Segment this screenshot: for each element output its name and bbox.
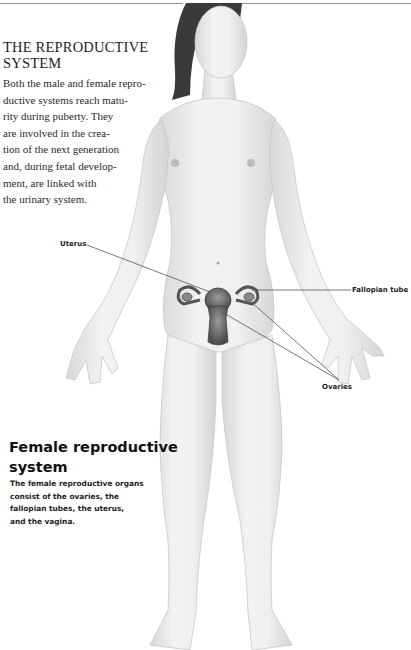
label-ovaries: Ovaries	[322, 383, 352, 391]
label-uterus: Uterus	[60, 240, 86, 248]
caption-title: Female reproductive system	[9, 437, 199, 477]
section-title-line: THE REPRODUCTIVE	[3, 39, 163, 55]
caption-body: The female reproductive organs consist o…	[10, 478, 180, 528]
caption-line: consist of the ovaries, the	[10, 491, 180, 504]
intro-line: the urinary system.	[3, 191, 163, 208]
caption-line: The female reproductive organs	[10, 478, 180, 491]
intro-line: Both the male and female repro-	[3, 75, 163, 92]
caption-title-line: system	[9, 457, 199, 477]
section-title-line: SYSTEM	[3, 55, 163, 71]
intro-line: rity during puberty. They	[3, 108, 163, 125]
caption-line: fallopian tubes, the uterus,	[10, 503, 180, 516]
intro-line: and, during fetal develop-	[3, 158, 163, 175]
label-fallopian-tube: Fallopian tube	[352, 286, 408, 294]
breast-detail-right	[247, 159, 255, 167]
caption-title-line: Female reproductive	[9, 437, 199, 457]
intro-line: are involved in the crea-	[3, 125, 163, 142]
intro-line: tion of the next generation	[3, 141, 163, 158]
intro-line: ment, are linked with	[3, 175, 163, 192]
intro-line: ductive systems reach matu-	[3, 92, 163, 109]
intro-paragraph: Both the male and female repro- ductive …	[3, 75, 163, 208]
caption-line: and the vagina.	[10, 516, 180, 529]
navel	[217, 262, 220, 265]
breast-detail-left	[171, 159, 179, 167]
section-title: THE REPRODUCTIVE SYSTEM	[3, 39, 163, 71]
